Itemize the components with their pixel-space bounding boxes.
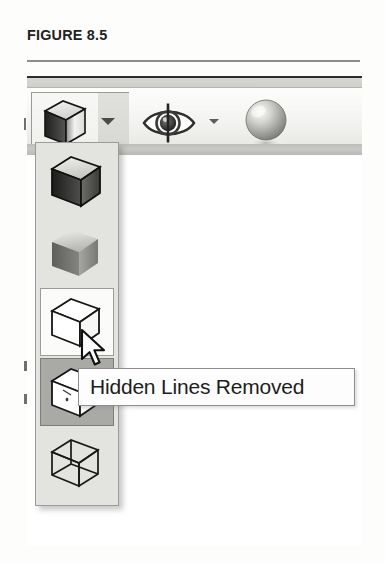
- flyout-item-shaded-with-edges[interactable]: [40, 288, 114, 356]
- eye-icon[interactable]: [141, 102, 197, 144]
- wireframe-cube-icon: [40, 428, 114, 496]
- application-window: Hidden Lines Removed: [27, 76, 362, 546]
- visibility-chevron-down-icon[interactable]: [209, 119, 219, 124]
- flyout-item-shaded[interactable]: [40, 218, 114, 286]
- view-styles-toolbar: [27, 88, 362, 146]
- visual-style-chevron-down-icon[interactable]: [101, 118, 115, 125]
- shaded-cube-dark-icon: [40, 148, 114, 216]
- shaded-cube-icon[interactable]: [39, 98, 91, 148]
- tooltip-label: Hidden Lines Removed: [90, 375, 304, 399]
- chevron-down-icon: [209, 119, 219, 124]
- chevron-down-icon: [101, 118, 115, 125]
- figure-caption: FIGURE 8.5: [27, 26, 107, 44]
- shaded-cube-light-icon: [40, 218, 114, 286]
- scan-edge-tick: [24, 394, 27, 404]
- visual-style-flyout-panel: [35, 142, 119, 506]
- hidden-lines-removed-tooltip: Hidden Lines Removed: [78, 368, 355, 406]
- sphere-icon[interactable]: [238, 96, 294, 150]
- scan-edge-tick: [24, 118, 26, 130]
- outline-cube-icon: [41, 289, 113, 355]
- caption-divider: [27, 60, 360, 62]
- flyout-item-wireframe[interactable]: [40, 428, 114, 496]
- toolbar-title-strip: [27, 78, 362, 88]
- flyout-item-realistic[interactable]: [40, 148, 114, 216]
- scan-edge-tick: [24, 361, 27, 371]
